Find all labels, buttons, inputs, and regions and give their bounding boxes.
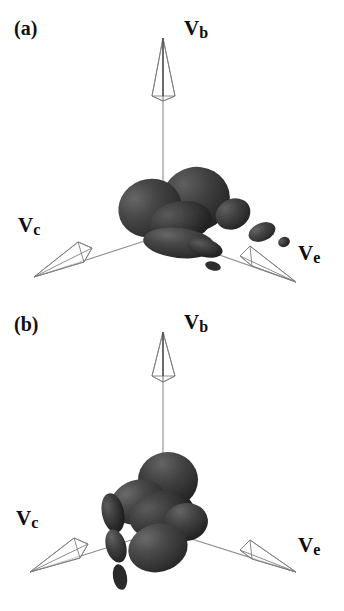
panel-a: (a) xyxy=(0,0,344,305)
axis-label-vb-symbol: V xyxy=(184,310,199,334)
axis-label-ve-subscript: e xyxy=(313,541,320,558)
axis-label-vc-subscript: c xyxy=(31,514,38,531)
arrow-cone-vc xyxy=(30,538,88,572)
panel-b-orbital-lobes xyxy=(98,452,210,591)
axis-label-vc: Vc xyxy=(16,508,38,529)
panel-b: (b) xyxy=(0,300,344,611)
axis-label-vb-subscript: b xyxy=(199,318,208,335)
axis-label-vb-symbol: V xyxy=(184,16,199,40)
axis-label-ve: Ve xyxy=(298,535,320,556)
axis-label-vc-symbol: V xyxy=(16,506,31,530)
axis-label-vc-subscript: c xyxy=(33,221,40,238)
orbital-lobe-satellite xyxy=(102,527,131,565)
panel-b-scene xyxy=(0,300,344,611)
orbital-lobe-satellite xyxy=(246,218,279,245)
orbital-lobe-tail xyxy=(111,563,129,591)
axis-label-vb: Vb xyxy=(184,312,208,333)
arrow-cone-ve xyxy=(240,246,296,282)
orbital-lobe-satellite xyxy=(277,235,292,249)
axis-label-vc: Vc xyxy=(18,215,40,236)
figure-root: (a) xyxy=(0,0,344,611)
arrow-cone-vb xyxy=(152,332,175,382)
arrow-cone-ve xyxy=(240,540,296,572)
orbital-lobe-fleck xyxy=(204,259,222,272)
axis-label-ve-symbol: V xyxy=(298,533,313,557)
panel-a-orbital-lobes xyxy=(110,160,291,273)
panel-a-scene xyxy=(0,0,344,305)
arrow-cone-vb xyxy=(152,38,175,101)
axis-label-vb: Vb xyxy=(184,18,208,39)
axis-label-ve-subscript: e xyxy=(313,249,320,266)
axis-label-vc-symbol: V xyxy=(18,213,33,237)
axis-label-vb-subscript: b xyxy=(199,24,208,41)
axis-label-ve: Ve xyxy=(298,243,320,264)
arrow-cone-vc xyxy=(34,242,92,277)
axis-label-ve-symbol: V xyxy=(298,241,313,265)
